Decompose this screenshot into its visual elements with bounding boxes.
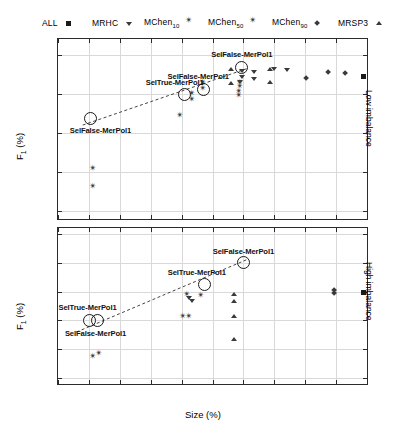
data-point-mchen90 — [341, 69, 350, 78]
grid-line-horizontal — [58, 292, 367, 293]
x-axis-tick — [89, 228, 90, 232]
x-axis-tick — [182, 215, 183, 219]
legend-label-mrsp3: MRSP3 — [338, 18, 368, 28]
data-point-mchen10 — [89, 167, 98, 176]
x-axis-tick — [213, 39, 214, 43]
data-point-mrsp3 — [265, 65, 274, 74]
highlight-ring — [198, 278, 211, 291]
data-point-mchen10 — [89, 185, 98, 194]
grid-line-vertical — [213, 39, 214, 219]
x-axis-tick — [243, 215, 244, 219]
legend-item-mchen10: MChen10 — [144, 14, 194, 32]
grid-line-vertical — [336, 39, 337, 219]
y-axis-title: F1 (%) — [14, 133, 27, 160]
legend-label-mchen90: MChen90 — [272, 17, 307, 29]
data-point-mchen90 — [330, 289, 339, 298]
diamond-marker-icon — [313, 19, 322, 28]
x-axis-tick — [58, 39, 59, 43]
y-axis-tick — [363, 55, 367, 56]
legend-label-mchen10: MChen10 — [144, 17, 179, 29]
grid-line-vertical — [182, 228, 183, 384]
data-point-mrhc — [250, 74, 259, 83]
square-marker-icon — [64, 19, 73, 28]
legend-item-mrhc: MRHC — [92, 14, 133, 32]
data-point-mchen10 — [183, 293, 192, 302]
panel-side-label-low: Low imbalance — [364, 90, 374, 147]
x-axis-tick — [151, 380, 152, 384]
y-axis-tick — [58, 349, 62, 350]
legend-label-mrhc: MRHC — [92, 18, 118, 28]
x-axis-tick — [305, 380, 306, 384]
y-axis-tick — [363, 234, 367, 235]
x-axis-tick — [151, 215, 152, 219]
data-point-mchen10 — [176, 114, 185, 123]
y-axis-tick — [58, 263, 62, 264]
x-axis-tick — [120, 39, 121, 43]
data-point-mchen10 — [188, 98, 197, 107]
x-axis-tick — [182, 380, 183, 384]
y-axis-tick — [58, 94, 62, 95]
point-annotation-label: SelFalse-MerPol1 — [213, 246, 274, 255]
legend-label-all: ALL — [42, 18, 58, 28]
grid-line-horizontal — [58, 378, 367, 379]
legend-item-mchen90: MChen90 — [272, 14, 322, 32]
plot-area-bottom: 01020304050607080901006810121416SelTrue-… — [58, 228, 367, 384]
data-point-mchen90 — [302, 74, 311, 83]
y-axis-tick — [363, 211, 367, 212]
legend-label-mchen50: MChen50 — [208, 17, 243, 29]
y-axis-title-bottom: F1 (%) — [14, 303, 27, 330]
x-axis-tick — [213, 380, 214, 384]
legend-item-all: ALL — [42, 14, 73, 32]
highlight-ring — [237, 256, 250, 269]
x-axis-tick — [213, 228, 214, 232]
data-point-mchen50 — [235, 94, 244, 103]
x-axis-tick — [243, 39, 244, 43]
x-axis-tick — [274, 228, 275, 232]
y-axis-tick — [363, 172, 367, 173]
grid-line-vertical — [305, 228, 306, 384]
x-axis-tick — [274, 380, 275, 384]
x-axis-title: Size (%) — [185, 409, 221, 420]
data-point-mrsp3 — [230, 297, 239, 306]
y-axis-tick — [58, 211, 62, 212]
chart-panel-high-imbalance: 01020304050607080901006810121416SelTrue-… — [57, 227, 368, 385]
data-point-mrsp3 — [230, 335, 239, 344]
triangle-up-marker-icon — [374, 19, 383, 28]
y-axis-tick — [363, 349, 367, 350]
y-axis-tick — [58, 133, 62, 134]
data-point-all — [359, 71, 367, 80]
grid-line-vertical — [305, 39, 306, 219]
y-axis-tick — [58, 292, 62, 293]
data-point-mrhc — [282, 65, 291, 74]
star4-marker-icon — [249, 19, 258, 28]
point-annotation-label: SelFalse-MerPol1 — [211, 50, 272, 59]
grid-line-horizontal — [58, 349, 367, 350]
x-axis-tick — [336, 39, 337, 43]
y-axis-tick — [363, 378, 367, 379]
highlight-ring — [235, 61, 248, 74]
grid-line-horizontal — [58, 94, 367, 95]
x-axis-tick — [89, 380, 90, 384]
x-axis-tick — [305, 39, 306, 43]
point-annotation-label: SelTrue-MerPol1 — [59, 303, 117, 312]
grid-line-vertical — [151, 39, 152, 219]
data-point-mchen10 — [95, 352, 104, 361]
x-axis-tick — [182, 39, 183, 43]
x-axis-tick — [58, 228, 59, 232]
legend-item-mrsp3: MRSP3 — [338, 14, 383, 32]
grid-line-vertical — [182, 39, 183, 219]
point-annotation-label: SelTrue-MerPol1 — [168, 268, 226, 277]
data-point-mchen90 — [324, 68, 333, 77]
x-axis-tick — [336, 228, 337, 232]
grid-line-horizontal — [58, 172, 367, 173]
x-axis-tick — [243, 228, 244, 232]
chart-panel-low-imbalance: 2530354045SelFalse-MerPol1SelFalse-MerPo… — [57, 38, 368, 220]
x-axis-tick — [243, 380, 244, 384]
x-axis-tick — [120, 215, 121, 219]
chart-figure: ALL MRHC MChen10 MChen50 MChen90 MRSP3 2… — [0, 0, 411, 436]
grid-line-vertical — [120, 228, 121, 384]
x-axis-tick — [120, 380, 121, 384]
point-annotation-label: SelFalse-MerPol1 — [65, 329, 126, 338]
x-axis-tick — [274, 39, 275, 43]
x-axis-tick — [274, 215, 275, 219]
